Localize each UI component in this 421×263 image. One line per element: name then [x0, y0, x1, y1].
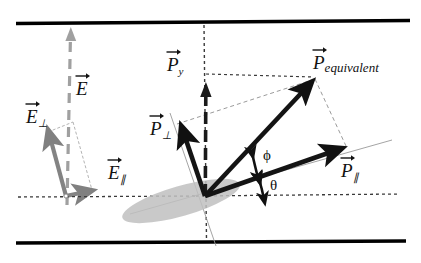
py-vector-group — [200, 82, 211, 196]
py-projection-dotted-line — [206, 74, 314, 77]
e-parallel-symbol: E — [108, 160, 120, 182]
p-parallel-symbol: P — [341, 158, 353, 180]
vector-overarrow-icon — [166, 47, 181, 55]
p-parallel-symbol-text: P — [341, 160, 353, 181]
e-parallel-label: E ∥ — [108, 160, 126, 185]
p-perp-label: P ⊥ — [150, 116, 172, 141]
e-field-symbol: E — [76, 76, 88, 98]
vector-overarrow-icon — [312, 45, 327, 53]
e-perp-subscript: ⊥ — [38, 117, 48, 129]
vector-overarrow-icon — [340, 153, 355, 161]
vector-overarrow-icon — [107, 155, 122, 163]
py-subscript: y — [179, 65, 184, 77]
py-symbol-text: P — [167, 54, 179, 75]
e-origin-dot — [64, 194, 68, 198]
e-perp-symbol-text: E — [26, 106, 38, 127]
figure-canvas: E E ⊥ E ∥ P y — [0, 0, 421, 263]
theta-angle-indicator — [259, 179, 264, 199]
vector-overarrow-icon — [149, 111, 164, 119]
e-parallel-vector-arrow — [66, 192, 85, 196]
py-label: P y — [167, 52, 184, 77]
vector-overarrow-icon — [75, 71, 90, 79]
e-construction-right — [73, 122, 92, 190]
p-parallel-label: P ∥ — [341, 158, 359, 183]
e-field-label: E — [76, 76, 88, 98]
tilted-ellipse-scatterer — [118, 170, 244, 232]
e-parallel-subscript: ∥ — [120, 173, 126, 185]
e-perp-symbol: E — [26, 104, 38, 126]
bottom-boundary-bar — [16, 241, 406, 243]
p-equivalent-symbol-text: P — [313, 52, 325, 73]
top-boundary-bar — [16, 21, 410, 24]
p-perp-symbol: P — [150, 116, 162, 138]
theta-angle-label: θ — [270, 178, 277, 193]
vector-overarrow-icon — [25, 99, 40, 107]
py-vector-arrowhead — [200, 82, 211, 97]
e-perp-label: E ⊥ — [26, 104, 48, 129]
p-perp-subscript: ⊥ — [162, 129, 172, 141]
e-field-axis-group — [65, 27, 76, 205]
parallelogram-edge-equivalent-to-parallel — [315, 79, 346, 146]
e-field-axis-arrowhead — [65, 27, 76, 41]
p-equivalent-subscript: equivalent — [325, 60, 379, 75]
phi-angle-indicator — [252, 153, 258, 178]
e-field-axis-dashed-line — [67, 35, 71, 205]
e-field-symbol-text: E — [76, 78, 88, 99]
vector-diagram-svg — [0, 0, 421, 263]
phi-angle-label: ϕ — [263, 148, 271, 163]
e-parallel-symbol-text: E — [108, 162, 120, 183]
ellipse-minor-axis-line — [170, 113, 216, 246]
p-equivalent-symbol: P — [313, 50, 325, 72]
p-equivalent-label: P equivalent — [313, 50, 379, 74]
p-perp-symbol-text: P — [150, 118, 162, 139]
py-symbol: P — [167, 52, 179, 74]
p-parallel-subscript: ∥ — [353, 171, 359, 183]
e-perp-vector-arrow — [50, 137, 66, 196]
